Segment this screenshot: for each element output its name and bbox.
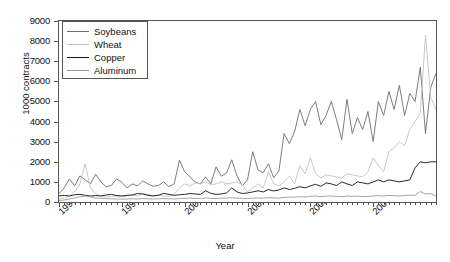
y-tick-label: 8000	[4, 35, 50, 46]
y-tick-label: 5000	[4, 95, 50, 106]
series-line-soybeans	[59, 67, 436, 193]
y-tick-label: 4000	[4, 116, 50, 127]
chart-legend: SoybeansWheatCopperAluminum	[62, 21, 148, 79]
legend-item-aluminum: Aluminum	[67, 64, 143, 77]
legend-swatch	[67, 31, 89, 32]
y-tick-label: 1000	[4, 176, 50, 187]
y-tick-label: 2000	[4, 156, 50, 167]
y-tick-label: 9000	[4, 15, 50, 26]
y-tick-label: 6000	[4, 75, 50, 86]
legend-label: Soybeans	[94, 25, 136, 38]
y-tick-label: 0	[4, 196, 50, 207]
legend-swatch	[67, 70, 89, 71]
x-axis-label: Year	[0, 240, 450, 251]
legend-label: Wheat	[94, 38, 121, 51]
legend-swatch	[67, 44, 89, 45]
legend-item-wheat: Wheat	[67, 38, 143, 51]
y-tick-label: 7000	[4, 55, 50, 66]
legend-swatch	[67, 57, 89, 58]
legend-label: Copper	[94, 51, 125, 64]
y-tick-label: 3000	[4, 136, 50, 147]
legend-item-soybeans: Soybeans	[67, 25, 143, 38]
chart-figure: 1000 contracts Year 01000200030004000500…	[0, 0, 450, 262]
legend-label: Aluminum	[94, 64, 136, 77]
legend-item-copper: Copper	[67, 51, 143, 64]
